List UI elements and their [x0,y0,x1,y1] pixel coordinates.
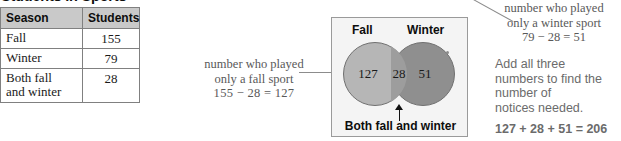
venn-caption-arrow-head-icon [395,104,403,110]
annotation-add-line3: number of [495,86,619,101]
connector-endpoint-winter [446,51,449,54]
annotation-fall-only-line1: number who played [186,57,322,72]
students-in-sports-table-block: Students in Sports Season Students Fall … [0,0,146,103]
annotation-add-line1: Add all three [495,57,619,72]
annotation-add-line2: numbers to find the [495,72,619,87]
cell-season-winter: Winter [1,49,83,69]
table-row: Winter 79 [1,49,140,69]
table-row: Both fall and winter 28 [1,69,140,103]
cell-season-both-line1: Both fall [6,70,52,85]
students-in-sports-table: Season Students Fall 155 Winter 79 Both … [0,7,140,103]
table-row: Fall 155 [1,29,140,49]
venn-diagram-panel: Fall Winter 127 28 51 Both fall and wint… [331,17,468,137]
venn-label-winter: Winter [407,23,444,37]
annotation-add-all-three: Add all three numbers to find the number… [495,57,619,115]
cell-students-fall: 155 [83,29,140,49]
venn-label-fall: Fall [352,23,373,37]
annotation-winter-only: number who played only a winter sport 79… [487,1,621,45]
venn-value-fall-only: 127 [351,66,385,82]
cell-season-both-line2: and winter [6,84,61,99]
column-header-season: Season [1,8,83,29]
table-header-row: Season Students [1,8,140,29]
cell-students-both: 28 [83,69,140,103]
cell-season-both: Both fall and winter [1,69,83,103]
annotation-fall-only: number who played only a fall sport 155 … [186,57,322,101]
venn-value-intersection: 28 [387,66,411,82]
annotation-total-equation: 127 + 28 + 51 = 206 [495,122,621,136]
column-header-students: Students [83,8,140,29]
annotation-add-line4: notices needed. [495,101,619,116]
annotation-winter-only-line1: number who played [487,1,621,16]
table-title: Students in Sports [0,0,146,4]
venn-caption-both: Both fall and winter [332,119,469,133]
venn-value-winter-only: 51 [412,66,438,82]
annotation-fall-only-line2: only a fall sport [186,72,322,87]
cell-students-winter: 79 [83,49,140,69]
cell-season-fall: Fall [1,29,83,49]
annotation-winter-only-equation: 79 − 28 = 51 [487,30,621,45]
annotation-fall-only-equation: 155 − 28 = 127 [186,86,322,101]
